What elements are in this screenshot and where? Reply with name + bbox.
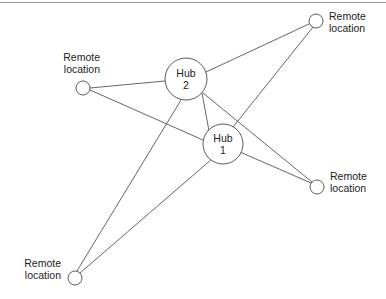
remote-node-circle[interactable] — [76, 81, 90, 95]
remote-node-circle[interactable] — [310, 180, 324, 194]
connection-edge-hub1-remote-topright — [233, 27, 313, 127]
remote-node-circle[interactable] — [309, 14, 323, 28]
node-remote-right[interactable]: Remotelocation — [310, 170, 367, 194]
connection-edge-hub2-remote-left — [90, 81, 165, 88]
node-remote-bottom-left[interactable]: Remotelocation — [24, 257, 82, 285]
hub-label-line-1: Hub — [176, 67, 195, 79]
node-hub-2[interactable]: Hub2 — [165, 58, 207, 100]
remote-node-circle[interactable] — [68, 271, 82, 285]
remote-node-label: Remotelocation — [24, 257, 61, 281]
remote-node-label: Remotelocation — [330, 170, 367, 194]
hub-nodes-group: Hub2Hub1 — [165, 58, 243, 164]
hub-label-line-2: 2 — [183, 79, 189, 91]
node-remote-left[interactable]: Remotelocation — [63, 51, 100, 95]
remote-node-label: Remotelocation — [329, 10, 366, 34]
label-line-2: location — [25, 269, 61, 281]
node-hub-1[interactable]: Hub1 — [203, 124, 243, 164]
connection-edge-hub2-hub1 — [202, 93, 209, 131]
connection-edge-hub1-remote-botleft — [80, 159, 212, 273]
label-line-2: location — [330, 182, 366, 194]
hub-label-line-2: 1 — [220, 144, 226, 156]
label-line-1: Remote — [63, 51, 100, 63]
remote-nodes-group: RemotelocationRemotelocationRemotelocati… — [24, 10, 367, 285]
connection-edge-hub2-remote-topright — [206, 24, 309, 72]
connection-edge-hub1-remote-right — [240, 152, 311, 183]
topology-svg: RemotelocationRemotelocationRemotelocati… — [0, 0, 386, 299]
label-line-2: location — [64, 63, 100, 75]
hub-label-line-1: Hub — [213, 132, 232, 144]
node-remote-top-right[interactable]: Remotelocation — [309, 10, 366, 34]
connection-edge-hub2-remote-botleft — [77, 100, 181, 271]
label-line-1: Remote — [329, 10, 366, 22]
network-diagram-canvas: RemotelocationRemotelocationRemotelocati… — [0, 0, 386, 299]
label-line-1: Remote — [330, 170, 367, 182]
label-line-1: Remote — [24, 257, 61, 269]
remote-node-label: Remotelocation — [63, 51, 100, 75]
label-line-2: location — [329, 22, 365, 34]
